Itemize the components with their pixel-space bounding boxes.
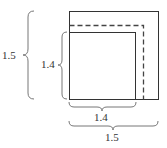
- dashed-square: [70, 26, 144, 100]
- bottom-inner-brace: [69, 102, 136, 111]
- outer-square: [70, 12, 159, 100]
- bottom-outer-label: 1.5: [105, 131, 119, 143]
- left-inner-label: 1.4: [41, 58, 55, 70]
- diagram-canvas: 1.5 1.4 1.4 1.5: [0, 0, 167, 148]
- inner-square: [70, 33, 136, 100]
- bottom-outer-brace: [69, 121, 158, 130]
- left-inner-brace: [58, 32, 67, 99]
- left-outer-label: 1.5: [2, 49, 16, 61]
- bottom-inner-label: 1.4: [94, 111, 108, 123]
- left-outer-brace: [23, 11, 34, 99]
